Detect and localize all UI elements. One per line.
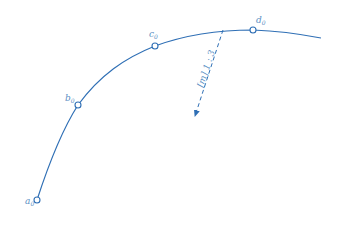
svg-text:c0: c0: [149, 29, 158, 40]
point-a0: a0: [25, 196, 40, 207]
curve: [37, 30, 321, 200]
svg-text:d0: d0: [256, 15, 266, 26]
arrow-label: [m] 1 : 3: [195, 49, 217, 89]
curve-diagram: [m] 1 : 3 a0 b0 c0 d0: [0, 0, 347, 227]
svg-text:a0: a0: [25, 196, 34, 207]
point-b0: b0: [65, 93, 81, 108]
point-c0: c0: [149, 29, 158, 49]
svg-text:b0: b0: [65, 93, 75, 104]
